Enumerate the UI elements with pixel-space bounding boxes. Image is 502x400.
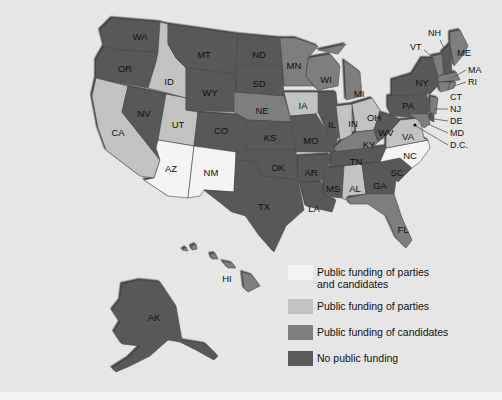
label-AL: AL bbox=[349, 183, 361, 194]
label-NJ: NJ bbox=[450, 104, 461, 114]
label-DC: D.C. bbox=[450, 140, 468, 150]
bottom-border bbox=[0, 392, 502, 400]
label-ID: ID bbox=[164, 76, 174, 87]
label-VT: VT bbox=[410, 42, 422, 52]
label-SC: SC bbox=[390, 167, 403, 178]
label-NV: NV bbox=[137, 108, 151, 119]
label-FL: FL bbox=[397, 224, 408, 235]
label-WV: WV bbox=[378, 127, 394, 138]
label-MA: MA bbox=[468, 65, 482, 75]
label-DE: DE bbox=[450, 116, 463, 126]
legend-swatch bbox=[288, 351, 313, 366]
label-NM: NM bbox=[204, 167, 219, 178]
label-NE: NE bbox=[255, 105, 268, 116]
state-CT bbox=[438, 82, 450, 92]
label-AR: AR bbox=[304, 167, 317, 178]
legend-label: Public funding of candidates bbox=[317, 325, 448, 338]
label-NY: NY bbox=[415, 77, 429, 88]
legend-label: Public funding of parties bbox=[317, 266, 429, 278]
legend-label-line2: and candidates bbox=[317, 278, 429, 290]
legend-label: Public funding of parties bbox=[317, 299, 429, 312]
label-KY: KY bbox=[363, 139, 376, 150]
label-OR: OR bbox=[118, 63, 132, 74]
legend-item-parties: Public funding of parties bbox=[288, 299, 498, 325]
label-ME: ME bbox=[457, 47, 471, 58]
label-MT: MT bbox=[197, 49, 211, 60]
label-RI: RI bbox=[468, 77, 477, 87]
legend-swatch bbox=[288, 325, 313, 340]
label-VA: VA bbox=[402, 131, 415, 142]
label-OH: OH bbox=[367, 112, 381, 123]
legend: Public funding of parties and candidates… bbox=[288, 265, 498, 377]
label-TN: TN bbox=[350, 156, 363, 167]
legend-swatch bbox=[288, 265, 313, 280]
label-CA: CA bbox=[111, 127, 125, 138]
label-MN: MN bbox=[287, 60, 302, 71]
label-MS: MS bbox=[326, 183, 340, 194]
label-CT: CT bbox=[450, 92, 462, 102]
label-IL: IL bbox=[328, 119, 336, 130]
label-ND: ND bbox=[252, 49, 266, 60]
label-PA: PA bbox=[402, 100, 415, 111]
state-AK bbox=[112, 280, 218, 372]
label-KS: KS bbox=[264, 132, 277, 143]
label-MD: MD bbox=[450, 128, 464, 138]
label-WI: WI bbox=[320, 74, 332, 85]
state-NJ bbox=[430, 96, 438, 114]
label-GA: GA bbox=[373, 180, 387, 191]
label-IN: IN bbox=[348, 118, 358, 129]
label-WA: WA bbox=[133, 31, 149, 42]
label-AZ: AZ bbox=[165, 163, 177, 174]
legend-item-no-funding: No public funding bbox=[288, 351, 498, 377]
label-UT: UT bbox=[172, 119, 185, 130]
label-TX: TX bbox=[258, 201, 271, 212]
label-OK: OK bbox=[271, 162, 285, 173]
dc-marker bbox=[413, 123, 416, 126]
label-HI: HI bbox=[222, 273, 232, 284]
label-MI: MI bbox=[354, 88, 365, 99]
label-LA: LA bbox=[308, 203, 320, 214]
legend-swatch bbox=[288, 299, 313, 314]
label-MO: MO bbox=[303, 135, 318, 146]
label-IA: IA bbox=[299, 100, 309, 111]
legend-label: No public funding bbox=[317, 351, 398, 364]
state-WA bbox=[100, 18, 160, 52]
label-NC: NC bbox=[403, 150, 417, 161]
label-AK: AK bbox=[148, 312, 161, 323]
state-HI bbox=[182, 244, 260, 292]
label-NH: NH bbox=[428, 28, 441, 38]
state-FL bbox=[346, 194, 412, 248]
state-NH bbox=[442, 44, 452, 74]
label-WY: WY bbox=[202, 87, 218, 98]
state-DE bbox=[430, 114, 434, 122]
label-CO: CO bbox=[214, 125, 228, 136]
label-SD: SD bbox=[252, 78, 265, 89]
legend-item-candidates: Public funding of candidates bbox=[288, 325, 498, 351]
legend-item-parties-and-candidates: Public funding of parties and candidates bbox=[288, 265, 498, 299]
